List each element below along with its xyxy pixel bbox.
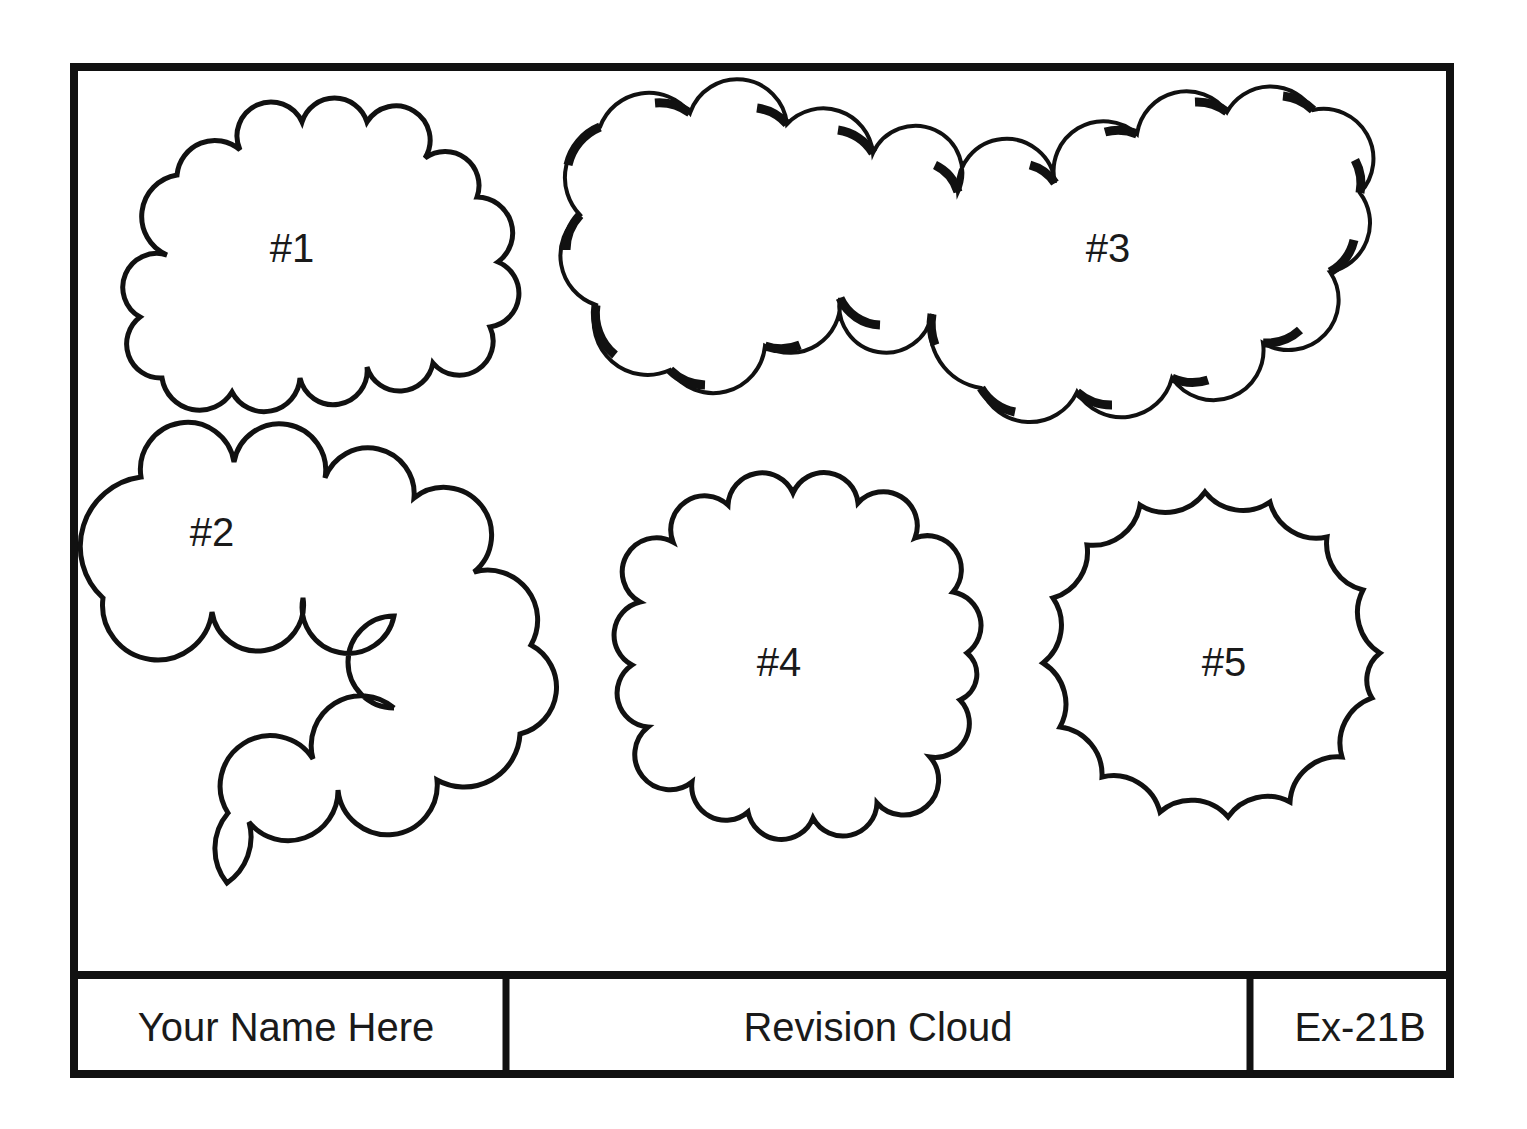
cloud-label-4: #4 [757,640,802,685]
title-block-title: Revision Cloud [743,1005,1012,1050]
revision-cloud-1[interactable] [123,98,519,412]
title-block-author: Your Name Here [138,1005,434,1050]
cloud-label-1: #1 [270,226,315,271]
revision-cloud-2[interactable] [80,422,556,883]
cloud-label-5: #5 [1202,640,1247,685]
drawing-sheet [0,0,1527,1129]
cloud-label-3: #3 [1086,226,1131,271]
title-block-sheet-id: Ex-21B [1294,1005,1425,1050]
revision-cloud-3[interactable] [560,79,1373,422]
border-frame [74,67,1450,1074]
cloud-label-2: #2 [190,510,235,555]
